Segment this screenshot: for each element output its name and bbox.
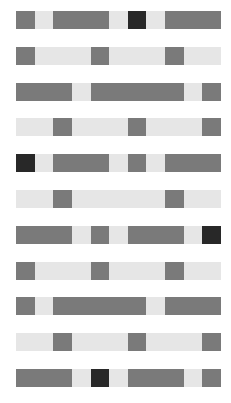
gray-cell: [128, 118, 147, 136]
gray-cell: [72, 297, 91, 315]
gray-cell: [202, 118, 221, 136]
gray-cell: [91, 297, 110, 315]
gray-cell: [53, 190, 72, 208]
light-cell: [146, 333, 165, 351]
gray-cell: [184, 11, 203, 29]
gray-cell: [165, 369, 184, 387]
light-cell: [109, 226, 128, 244]
light-cell: [109, 190, 128, 208]
gray-cell: [91, 262, 110, 280]
dark-cell: [128, 11, 147, 29]
light-cell: [35, 297, 54, 315]
gray-cell: [72, 11, 91, 29]
light-cell: [184, 190, 203, 208]
gray-cell: [53, 83, 72, 101]
gray-cell: [165, 11, 184, 29]
grid-row: [16, 226, 221, 244]
light-cell: [184, 369, 203, 387]
gray-cell: [16, 297, 35, 315]
light-cell: [91, 190, 110, 208]
gray-cell: [16, 369, 35, 387]
light-cell: [184, 226, 203, 244]
dark-cell: [202, 226, 221, 244]
grid-row: [16, 11, 221, 29]
light-cell: [184, 333, 203, 351]
light-cell: [109, 369, 128, 387]
light-cell: [109, 262, 128, 280]
light-cell: [146, 190, 165, 208]
gray-cell: [184, 297, 203, 315]
gray-cell: [16, 83, 35, 101]
light-cell: [72, 83, 91, 101]
grid-row: [16, 47, 221, 65]
gray-cell: [53, 369, 72, 387]
gray-cell: [165, 297, 184, 315]
light-cell: [165, 333, 184, 351]
gray-cell: [128, 333, 147, 351]
gray-cell: [128, 369, 147, 387]
gray-cell: [35, 83, 54, 101]
light-cell: [165, 118, 184, 136]
light-cell: [91, 118, 110, 136]
grid-row: [16, 190, 221, 208]
light-cell: [72, 118, 91, 136]
light-cell: [72, 333, 91, 351]
light-cell: [184, 83, 203, 101]
gray-cell: [184, 154, 203, 172]
light-cell: [16, 118, 35, 136]
light-cell: [72, 262, 91, 280]
gray-cell: [202, 297, 221, 315]
light-cell: [72, 47, 91, 65]
light-cell: [146, 154, 165, 172]
gray-cell: [91, 154, 110, 172]
light-cell: [128, 47, 147, 65]
gray-cell: [165, 262, 184, 280]
light-cell: [184, 262, 203, 280]
grid-row: [16, 154, 221, 172]
gray-cell: [53, 297, 72, 315]
light-cell: [35, 11, 54, 29]
light-cell: [72, 369, 91, 387]
grid-row: [16, 333, 221, 351]
light-cell: [184, 118, 203, 136]
gray-cell: [91, 47, 110, 65]
gray-cell: [53, 11, 72, 29]
gray-cell: [53, 226, 72, 244]
gray-cell: [202, 11, 221, 29]
grid-row: [16, 83, 221, 101]
gray-cell: [202, 83, 221, 101]
gray-cell: [16, 262, 35, 280]
light-cell: [146, 297, 165, 315]
gray-cell: [128, 154, 147, 172]
gray-cell: [72, 154, 91, 172]
light-cell: [109, 154, 128, 172]
light-cell: [109, 333, 128, 351]
gray-cell: [165, 154, 184, 172]
gray-cell: [202, 333, 221, 351]
gray-cell: [146, 83, 165, 101]
light-cell: [109, 47, 128, 65]
light-cell: [146, 118, 165, 136]
light-cell: [35, 118, 54, 136]
gray-cell: [109, 83, 128, 101]
gray-cell: [16, 226, 35, 244]
gray-cell: [91, 226, 110, 244]
light-cell: [109, 11, 128, 29]
light-cell: [184, 47, 203, 65]
gray-cell: [35, 226, 54, 244]
light-cell: [109, 118, 128, 136]
light-cell: [53, 47, 72, 65]
gray-cell: [53, 333, 72, 351]
gray-cell: [165, 190, 184, 208]
gray-cell: [91, 83, 110, 101]
light-cell: [202, 190, 221, 208]
light-cell: [35, 154, 54, 172]
gray-cell: [128, 297, 147, 315]
light-cell: [128, 262, 147, 280]
gray-cell: [128, 226, 147, 244]
grid-row: [16, 369, 221, 387]
light-cell: [16, 333, 35, 351]
gray-cell: [146, 226, 165, 244]
light-cell: [202, 47, 221, 65]
light-cell: [146, 47, 165, 65]
